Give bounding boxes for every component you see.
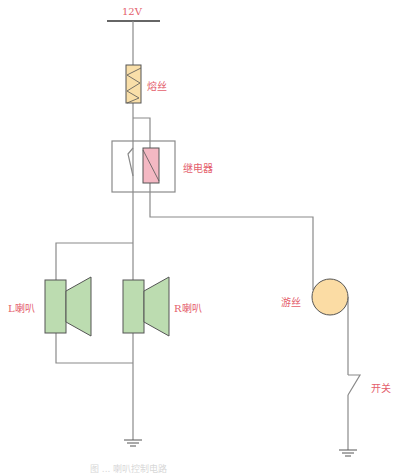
hairspring-icon — [312, 279, 348, 315]
fuse-label: 熔丝 — [147, 78, 167, 93]
wire-branch-coil — [133, 118, 150, 148]
wire-speaker-bottom — [56, 333, 133, 363]
horn-switch — [348, 375, 360, 395]
switch-label: 开关 — [371, 380, 391, 395]
relay-label: 继电器 — [183, 160, 213, 175]
wire-coil-hairspring — [150, 183, 313, 290]
hairspring-label: 游丝 — [281, 294, 301, 309]
left-speaker-icon — [45, 277, 91, 336]
left-speaker-label: L喇叭 — [8, 300, 35, 315]
relay-contact — [128, 148, 133, 176]
figure-caption: 图 ... 喇叭控制电路 — [90, 462, 167, 475]
right-speaker-label: R喇叭 — [174, 300, 202, 315]
wire-speaker-top — [56, 243, 133, 280]
ground-icon-right — [339, 450, 357, 456]
relay-coil — [143, 148, 159, 183]
right-speaker-icon — [123, 277, 169, 336]
fuse — [126, 65, 141, 103]
supply-label: 12V — [122, 6, 142, 17]
ground-icon-left — [124, 440, 142, 446]
